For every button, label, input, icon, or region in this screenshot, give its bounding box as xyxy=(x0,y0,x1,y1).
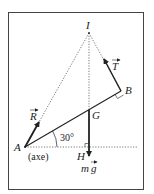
label-I: I xyxy=(85,19,91,31)
label-B: B xyxy=(125,84,132,96)
axis-label: (axe) xyxy=(28,151,49,163)
diagram-frame xyxy=(9,13,144,190)
label-weight-m: m xyxy=(81,162,89,174)
point-A-dot xyxy=(24,146,26,148)
angle-arc xyxy=(53,131,57,147)
angle-label: 30° xyxy=(60,132,74,143)
statics-diagram: I A B G H R T m g 30° (axe) xyxy=(0,0,154,194)
point-I-dot xyxy=(88,32,90,34)
right-angle-mark-B xyxy=(115,95,124,99)
label-weight-g: g xyxy=(91,162,97,174)
label-A: A xyxy=(13,141,21,153)
label-H: H xyxy=(76,150,86,162)
label-G: G xyxy=(92,109,100,121)
label-R: R xyxy=(29,110,37,122)
label-T: T xyxy=(112,60,119,72)
